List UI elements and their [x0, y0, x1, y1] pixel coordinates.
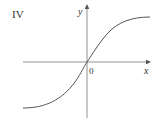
y-axis-label: y — [77, 6, 83, 17]
panel-label: IV — [12, 8, 24, 20]
origin-label: 0 — [89, 66, 94, 76]
sigmoid-curve — [23, 17, 150, 108]
x-axis-label: x — [143, 65, 149, 76]
graph: IV y 0 x — [0, 0, 156, 121]
